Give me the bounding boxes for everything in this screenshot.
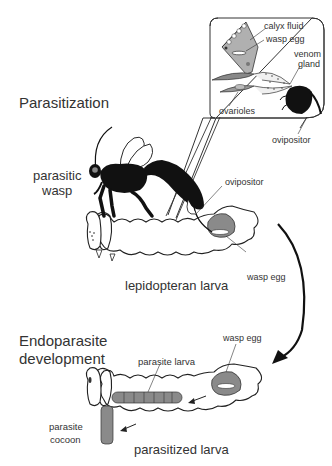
parasitoid-lifecycle-diagram: calyx fluid wasp egg venom gland ovariol… bbox=[0, 0, 332, 466]
venom-gland-filaments bbox=[254, 72, 292, 94]
label-ovipositor: ovipositor bbox=[225, 177, 264, 187]
parasite-larva bbox=[112, 392, 182, 403]
label-lepidopteran-larva: lepidopteran larva bbox=[125, 278, 229, 293]
section-title-development: development bbox=[19, 350, 106, 367]
label-parasitized-larva: parasitized larva bbox=[134, 442, 229, 457]
label-wasp: wasp bbox=[41, 183, 72, 198]
label-ovarioles: ovarioles bbox=[219, 106, 256, 116]
wasp-eye bbox=[92, 167, 98, 173]
label-parasite-larva: parasite larva bbox=[138, 356, 196, 367]
label-parasite: parasite bbox=[49, 421, 83, 432]
parasite-cocoon bbox=[101, 406, 113, 444]
label-cocoon: cocoon bbox=[50, 434, 81, 445]
section-title-endoparasite: Endoparasite bbox=[19, 332, 107, 349]
development-arrow bbox=[272, 224, 304, 364]
inset-wasp-egg bbox=[232, 51, 246, 55]
label-parasitic: parasitic bbox=[33, 168, 82, 183]
label-wasp-egg-top: wasp egg bbox=[246, 272, 286, 282]
label-calyx-fluid: calyx fluid bbox=[264, 21, 304, 31]
venom-reservoir bbox=[286, 86, 313, 114]
label-wasp-egg-bottom: wasp egg bbox=[222, 333, 262, 343]
label-inset-ovipositor: ovipositor bbox=[272, 135, 311, 145]
ovariole-upper bbox=[212, 73, 254, 80]
label-gland: gland bbox=[298, 59, 320, 69]
label-inset-wasp-egg: wasp egg bbox=[265, 34, 305, 44]
label-venom: venom bbox=[294, 49, 321, 59]
section-title-parasitization: Parasitization bbox=[19, 94, 109, 111]
